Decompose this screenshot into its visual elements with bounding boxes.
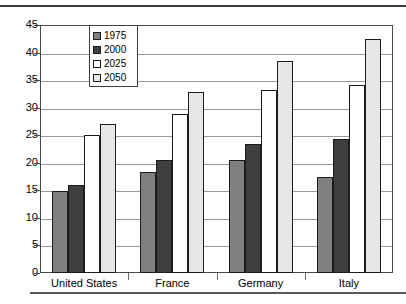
top-divider-rule — [0, 5, 406, 7]
bar — [52, 191, 68, 273]
bar-chart-figure: 051015202530354045 United StatesFranceGe… — [0, 0, 406, 304]
bar — [333, 139, 349, 273]
bar — [277, 61, 293, 273]
legend-label: 1975 — [104, 31, 126, 41]
bar — [68, 185, 84, 273]
bar — [229, 160, 245, 273]
bottom-divider-rule — [30, 292, 406, 294]
bar — [365, 39, 381, 273]
bar — [172, 114, 188, 273]
bar — [84, 135, 100, 273]
legend-entry: 2025 — [93, 57, 137, 71]
chart-legend: 1975200020252050 — [89, 25, 138, 87]
x-axis-category-label: Italy — [305, 277, 393, 290]
bar — [317, 177, 333, 273]
bar — [245, 144, 261, 273]
legend-entry: 2000 — [93, 43, 137, 57]
x-axis-category-label: Germany — [217, 277, 305, 290]
legend-entry: 1975 — [93, 29, 137, 43]
bar — [100, 124, 116, 273]
legend-swatch-icon — [93, 60, 101, 68]
x-axis-category-label: United States — [40, 277, 128, 290]
x-axis-category-label: France — [128, 277, 216, 290]
legend-label: 2050 — [104, 73, 126, 83]
bar — [349, 85, 365, 273]
bar — [261, 90, 277, 273]
legend-entry: 2050 — [93, 71, 137, 85]
legend-swatch-icon — [93, 32, 101, 40]
legend-swatch-icon — [93, 46, 101, 54]
legend-label: 2025 — [104, 59, 126, 69]
bar — [188, 92, 204, 273]
legend-swatch-icon — [93, 74, 101, 82]
bar — [156, 160, 172, 273]
bar — [140, 172, 156, 273]
y-axis-tick-mark — [34, 273, 40, 274]
legend-label: 2000 — [104, 45, 126, 55]
